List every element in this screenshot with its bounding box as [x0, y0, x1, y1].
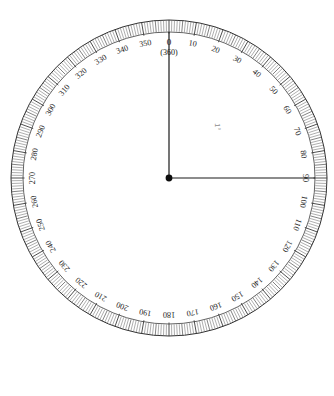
tick-mark	[115, 314, 120, 327]
tick-mark	[13, 156, 24, 158]
degree-label: 140	[249, 275, 264, 290]
tick-mark	[249, 301, 255, 311]
tick-mark	[61, 285, 69, 293]
tick-mark	[273, 282, 281, 290]
tick-mark	[199, 23, 201, 34]
tick-mark	[209, 26, 212, 37]
tick-mark	[155, 21, 156, 32]
tick-mark	[125, 319, 128, 330]
tick-mark	[61, 62, 69, 70]
tick-mark	[155, 324, 156, 335]
tick-mark	[187, 323, 188, 334]
tick-mark	[289, 87, 298, 94]
tick-mark	[261, 292, 268, 301]
degree-label: 350	[138, 38, 152, 49]
tick-mark	[78, 298, 85, 307]
degree-label: 270	[28, 172, 37, 184]
tick-mark	[14, 208, 25, 210]
tick-mark	[179, 324, 180, 335]
tick-mark	[314, 153, 325, 155]
tick-mark	[244, 304, 250, 314]
tick-mark	[182, 21, 183, 32]
tick-mark	[85, 302, 91, 312]
tick-mark	[312, 145, 323, 147]
tick-mark	[197, 322, 199, 333]
tick-mark	[244, 43, 250, 53]
tick-mark	[310, 218, 321, 221]
tick-mark	[189, 22, 191, 33]
tick-mark	[53, 70, 61, 78]
tick-mark	[13, 151, 26, 153]
tick-mark	[16, 216, 27, 219]
tick-mark	[297, 249, 307, 255]
tick-mark	[177, 20, 178, 31]
tick-mark	[25, 238, 36, 243]
tick-mark	[292, 258, 302, 264]
tick-mark	[90, 303, 97, 315]
tick-mark	[16, 137, 27, 140]
degree-label: 190	[138, 307, 152, 318]
tick-mark	[314, 201, 325, 203]
tick-mark	[70, 55, 77, 64]
vertex-dot[interactable]	[166, 175, 173, 182]
tick-mark	[78, 49, 85, 58]
tick-mark	[229, 312, 234, 323]
tick-mark	[204, 320, 207, 331]
tick-mark	[315, 164, 326, 165]
tick-mark	[152, 324, 153, 335]
tick-mark	[311, 203, 324, 205]
tick-mark	[315, 167, 326, 168]
tick-mark	[212, 318, 215, 329]
tick-mark	[311, 213, 322, 216]
degree-label: 280	[29, 147, 40, 161]
tick-mark	[301, 109, 311, 114]
tick-mark	[298, 104, 308, 109]
tick-mark	[229, 34, 234, 45]
tick-mark	[115, 30, 120, 43]
tick-mark	[128, 320, 131, 331]
tick-mark	[293, 94, 303, 100]
tick-mark	[52, 72, 61, 80]
degree-label: 290	[34, 124, 47, 139]
tick-mark	[32, 99, 44, 106]
degree-label: 250	[34, 217, 47, 232]
tick-mark	[297, 101, 307, 107]
tick-mark	[21, 227, 34, 232]
tick-mark	[284, 81, 293, 88]
tick-mark	[273, 66, 281, 74]
degree-label: 150	[230, 289, 245, 303]
tick-mark	[72, 53, 79, 62]
tick-mark	[303, 114, 314, 119]
tick-mark	[41, 264, 50, 271]
tick-mark	[218, 314, 223, 327]
degree-label: 110	[291, 218, 304, 232]
tick-mark	[212, 27, 215, 38]
degree-label: 10	[188, 38, 198, 48]
tick-mark	[26, 240, 36, 245]
tick-mark	[182, 324, 183, 335]
tick-mark	[194, 320, 196, 333]
tick-mark	[233, 36, 238, 46]
tick-mark	[13, 201, 24, 203]
tick-mark	[286, 83, 295, 90]
tick-mark	[29, 247, 39, 252]
tick-mark	[81, 47, 87, 57]
tick-mark	[251, 299, 257, 309]
degree-label: 70	[292, 126, 303, 137]
tick-mark	[269, 62, 277, 70]
tick-mark	[36, 258, 46, 264]
tick-mark	[31, 249, 41, 255]
tick-mark	[184, 324, 185, 335]
tick-mark	[125, 26, 128, 37]
tick-mark	[123, 318, 126, 329]
tick-mark	[43, 266, 52, 273]
tick-mark	[12, 164, 23, 165]
tick-mark	[83, 301, 89, 311]
tick-mark	[50, 274, 59, 282]
tick-mark	[192, 22, 194, 33]
tick-mark	[133, 321, 136, 332]
tick-mark	[65, 289, 73, 298]
tick-mark	[55, 280, 63, 288]
tick-mark	[300, 245, 310, 250]
tick-mark	[209, 319, 212, 330]
